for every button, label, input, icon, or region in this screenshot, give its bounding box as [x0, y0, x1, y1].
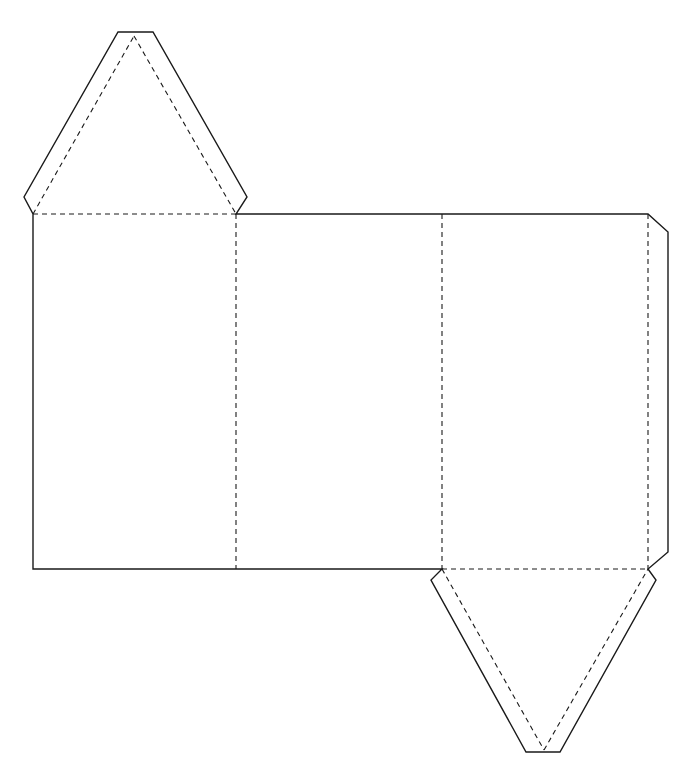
prism-net-diagram [0, 0, 693, 778]
fold-top-left [33, 36, 134, 214]
cut-outline [24, 32, 668, 752]
fold-bottom-right [544, 569, 648, 750]
fold-top-right [134, 36, 236, 214]
fold-bottom-left [442, 569, 544, 750]
